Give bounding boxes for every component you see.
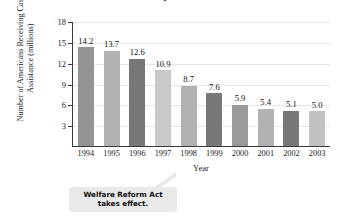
y-axis-tick-label: 18	[58, 18, 67, 27]
y-axis-tick-label: 15	[58, 39, 67, 48]
bar-value-label: 5.0	[312, 101, 323, 110]
bar[interactable]	[232, 105, 248, 146]
x-axis-tick-label: 2003	[309, 150, 326, 158]
bar-slot: 5.0	[309, 22, 325, 146]
y-axis-tick-label: 6	[62, 101, 66, 110]
bar[interactable]	[206, 93, 222, 146]
bar-slot: 7.6	[206, 22, 222, 146]
y-axis-tick	[68, 22, 72, 23]
bar[interactable]	[78, 47, 94, 146]
bar-value-label: 5.4	[260, 98, 271, 107]
bar[interactable]	[309, 111, 325, 146]
annotation-line-2: takes effect.	[69, 199, 177, 208]
x-axis-title: Year	[72, 163, 330, 173]
bar-value-label: 5.9	[235, 94, 246, 103]
x-axis-tick-label: 1996	[129, 150, 146, 158]
y-axis-title: Number of Americans Receiving Cash Assis…	[16, 0, 36, 128]
bar-series: 14.213.712.610.98.77.65.95.45.15.0	[73, 22, 330, 146]
y-axis-tick	[68, 105, 72, 106]
bar[interactable]	[258, 109, 274, 147]
bar[interactable]	[155, 70, 171, 146]
y-axis-tick	[68, 64, 72, 65]
bar-slot: 10.9	[155, 22, 171, 146]
chart-title: Welfare Recipients in the U.S.	[0, 0, 345, 1]
bar-value-label: 8.7	[183, 75, 194, 84]
bar[interactable]	[104, 51, 120, 146]
x-axis-tick-label: 1999	[206, 150, 223, 158]
plot-area: 369121518 14.213.712.610.98.77.65.95.45.…	[72, 22, 330, 147]
bar-slot: 5.9	[232, 22, 248, 146]
x-axis-tick-label: 1998	[180, 150, 197, 158]
bar-slot: 14.2	[78, 22, 94, 146]
bar[interactable]	[129, 59, 145, 147]
y-axis-tick	[68, 126, 72, 127]
y-axis-tick	[68, 85, 72, 86]
bar-slot: 5.4	[258, 22, 274, 146]
annotation-callout: Welfare Reform Act takes effect.	[69, 187, 177, 212]
bar-value-label: 7.6	[209, 83, 220, 92]
x-axis-tick-label: 2000	[232, 150, 249, 158]
x-axis-tick-label: 1997	[155, 150, 172, 158]
y-axis-tick-label: 12	[58, 59, 67, 68]
bar-slot: 13.7	[104, 22, 120, 146]
chart-container: Welfare Recipients in the U.S. Number of…	[0, 0, 345, 220]
bar[interactable]	[283, 111, 299, 146]
bar[interactable]	[181, 86, 197, 146]
bar-value-label: 13.7	[104, 40, 119, 49]
bar-value-label: 10.9	[155, 60, 170, 69]
bar-slot: 12.6	[129, 22, 145, 146]
bar-value-label: 5.1	[286, 100, 297, 109]
bar-slot: 8.7	[181, 22, 197, 146]
x-axis-tick-label: 2001	[257, 150, 274, 158]
x-axis-tick-label: 1994	[78, 150, 95, 158]
annotation-line-1: Welfare Reform Act	[69, 190, 177, 199]
x-axis-tick-label: 2002	[283, 150, 300, 158]
bar-slot: 5.1	[283, 22, 299, 146]
x-axis-tick-labels: 1994199519961997199819992000200120022003	[73, 150, 330, 162]
x-axis-line	[72, 146, 330, 147]
y-axis-tick-label: 3	[62, 122, 66, 131]
x-axis-tick-label: 1995	[103, 150, 120, 158]
bar-value-label: 12.6	[130, 48, 145, 57]
y-axis-tick-label: 9	[62, 80, 66, 89]
bar-value-label: 14.2	[78, 37, 93, 46]
y-axis-tick	[68, 43, 72, 44]
